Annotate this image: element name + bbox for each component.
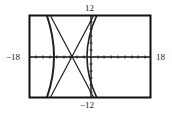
- graph-window: [0, 0, 172, 114]
